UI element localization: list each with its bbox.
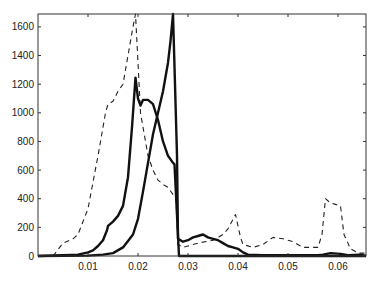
y-tick-label: 800	[17, 136, 34, 147]
y-tick-label: 400	[17, 193, 34, 204]
series-layer	[38, 14, 366, 256]
x-axis: 0.010.020.030.040.050.06	[78, 14, 348, 272]
series-thick-b	[38, 14, 366, 256]
y-tick-label: 1600	[12, 21, 35, 32]
x-tick-label: 0.02	[128, 261, 148, 272]
y-tick-label: 200	[17, 222, 34, 233]
x-tick-label: 0.03	[178, 261, 198, 272]
line-chart: 0.010.020.030.040.050.06 020040060080010…	[0, 0, 379, 282]
y-tick-label: 0	[28, 251, 34, 262]
x-tick-label: 0.01	[78, 261, 98, 272]
series-dashed	[53, 14, 366, 256]
y-tick-label: 1200	[12, 79, 35, 90]
y-axis: 02004006008001000120014001600	[12, 21, 366, 261]
x-tick-label: 0.05	[278, 261, 298, 272]
y-tick-label: 1000	[12, 107, 35, 118]
plot-frame	[38, 14, 366, 256]
x-tick-label: 0.06	[328, 261, 348, 272]
x-tick-label: 0.04	[228, 261, 248, 272]
y-tick-label: 1400	[12, 50, 35, 61]
y-tick-label: 600	[17, 165, 34, 176]
series-thick-a	[38, 78, 366, 256]
